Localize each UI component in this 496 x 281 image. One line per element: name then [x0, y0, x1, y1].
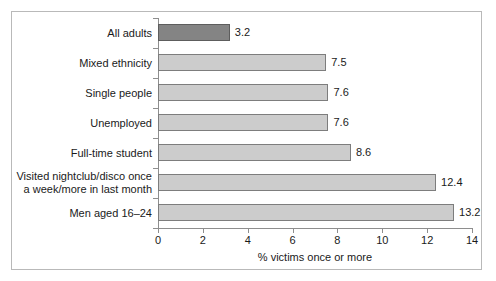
x-axis-tick — [248, 228, 249, 233]
plot-area: 3.2 7.5 7.6 7.6 8.6 12.4 13.2 — [158, 18, 472, 228]
bar-value-full-time-student: 8.6 — [351, 144, 371, 161]
category-label-visited-nightclub: Visited nightclub/disco once a week/more… — [16, 170, 152, 196]
bar-row: 7.6 — [158, 108, 472, 138]
x-axis-tick-label: 2 — [191, 234, 215, 246]
x-axis-tick — [382, 228, 383, 233]
bar-value-visited-nightclub: 12.4 — [436, 174, 462, 191]
category-label-all-adults: All adults — [16, 27, 152, 40]
category-label-men-aged-16-24: Men aged 16–24 — [16, 207, 152, 220]
x-axis-tick — [203, 228, 204, 233]
category-label-unemployed: Unemployed — [16, 117, 152, 130]
x-axis-tick-label: 0 — [146, 234, 170, 246]
bar-row: 7.5 — [158, 48, 472, 78]
bar-unemployed — [158, 114, 328, 131]
x-axis-title: % victims once or more — [158, 251, 472, 263]
bar-single-people — [158, 84, 328, 101]
chart-figure: All adults Mixed ethnicity Single people… — [0, 0, 496, 281]
bar-value-unemployed: 7.6 — [328, 114, 348, 131]
x-axis-tick-label: 10 — [370, 234, 394, 246]
bar-value-mixed-ethnicity: 7.5 — [326, 54, 346, 71]
bar-visited-nightclub — [158, 174, 436, 191]
x-axis-tick — [337, 228, 338, 233]
x-axis-tick-label: 12 — [415, 234, 439, 246]
bar-value-all-adults: 3.2 — [230, 24, 250, 41]
bar-value-single-people: 7.6 — [328, 84, 348, 101]
bar-row: 8.6 — [158, 138, 472, 168]
x-axis-tick-label: 6 — [281, 234, 305, 246]
value-axis-line — [158, 228, 472, 229]
x-axis-tick-label: 8 — [325, 234, 349, 246]
bar-value-men-aged-16-24: 13.2 — [454, 204, 480, 221]
bar-mixed-ethnicity — [158, 54, 326, 71]
x-axis-tick — [472, 228, 473, 233]
x-axis-tick — [158, 228, 159, 233]
category-label-full-time-student: Full-time student — [16, 147, 152, 160]
category-label-single-people: Single people — [16, 87, 152, 100]
bar-all-adults — [158, 24, 230, 41]
x-axis-tick-label: 14 — [460, 234, 484, 246]
bar-row: 12.4 — [158, 168, 472, 198]
bar-full-time-student — [158, 144, 351, 161]
x-axis-tick — [293, 228, 294, 233]
x-axis-tick-label: 4 — [236, 234, 260, 246]
x-axis-tick — [427, 228, 428, 233]
bar-row: 13.2 — [158, 198, 472, 228]
bar-row: 7.6 — [158, 78, 472, 108]
bar-men-aged-16-24 — [158, 204, 454, 221]
category-label-mixed-ethnicity: Mixed ethnicity — [16, 57, 152, 70]
bar-row: 3.2 — [158, 18, 472, 48]
